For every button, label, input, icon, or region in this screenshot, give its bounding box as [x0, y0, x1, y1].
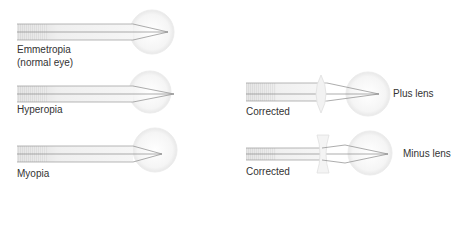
- plus-lens-label: Plus lens: [393, 88, 434, 99]
- emmetropia-label-line2: (normal eye): [17, 57, 73, 68]
- convex-lens-icon: [316, 75, 326, 113]
- minus-corrected-label: Corrected: [246, 166, 290, 177]
- eyeball-icon: [133, 128, 177, 172]
- myopia-panel: [17, 128, 177, 172]
- eyeball-icon: [348, 131, 392, 175]
- minus-lens-label: Minus lens: [403, 148, 451, 159]
- emmetropia-label: Emmetropia (normal eye): [17, 44, 73, 68]
- plus-corrected-label: Corrected: [246, 106, 290, 117]
- myopia-label: Myopia: [17, 168, 49, 179]
- hyperopia-label: Hyperopia: [17, 104, 63, 115]
- emmetropia-label-line1: Emmetropia: [17, 44, 73, 55]
